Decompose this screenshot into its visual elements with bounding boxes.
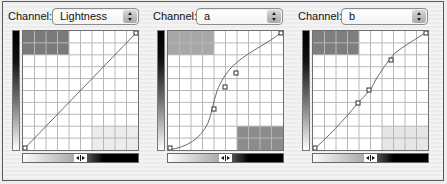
curve-control-point[interactable] (367, 88, 371, 92)
curve-endpoint-end[interactable] (279, 31, 283, 35)
curve-endpoint-end[interactable] (424, 31, 428, 35)
channel-label: Channel: (8, 10, 52, 22)
curve-control-point[interactable] (223, 85, 227, 89)
output-gradient-bar (157, 30, 165, 151)
channel-select-value: a (204, 10, 210, 22)
channel-select-value: Lightness (60, 10, 107, 22)
input-gradient-bar[interactable] (167, 153, 284, 163)
curve-control-point[interactable] (389, 58, 393, 62)
updown-arrows-icon (123, 10, 137, 23)
curve-endpoint-start[interactable] (168, 146, 172, 150)
curve-control-point[interactable] (212, 107, 216, 111)
curve-graph[interactable] (22, 30, 139, 151)
channel-select-lightness[interactable]: Lightness (52, 8, 139, 25)
updown-arrows-icon (267, 10, 281, 23)
gradient-toggle-knob-icon[interactable] (364, 154, 377, 162)
curve-control-point[interactable] (234, 71, 238, 75)
output-gradient-bar (302, 30, 310, 151)
curve-control-point[interactable] (356, 101, 360, 105)
updown-arrows-icon (412, 10, 426, 23)
channel-label: Channel: (153, 10, 197, 22)
channel-label: Channel: (298, 10, 342, 22)
output-gradient-bar (12, 30, 20, 151)
channel-select-value: b (349, 10, 355, 22)
channel-select-b[interactable]: b (341, 8, 428, 25)
curve-graph-svg (313, 31, 428, 150)
curve-graph[interactable] (312, 30, 429, 151)
curve-graph-svg (23, 31, 138, 150)
curve-endpoint-end[interactable] (134, 31, 138, 35)
input-gradient-bar[interactable] (22, 153, 139, 163)
curve-endpoint-start[interactable] (313, 146, 317, 150)
curve-graph[interactable] (167, 30, 284, 151)
channel-select-a[interactable]: a (196, 8, 283, 25)
input-gradient-bar[interactable] (312, 153, 429, 163)
curve-graph-svg (168, 31, 283, 150)
curve-endpoint-start[interactable] (23, 146, 27, 150)
gradient-toggle-knob-icon[interactable] (219, 154, 232, 162)
gradient-toggle-knob-icon[interactable] (74, 154, 87, 162)
